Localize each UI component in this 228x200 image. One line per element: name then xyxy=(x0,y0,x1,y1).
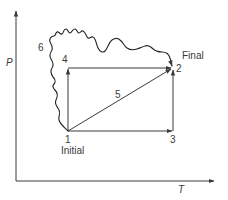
x-axis-label: T xyxy=(178,184,185,195)
path-5-label: 5 xyxy=(115,89,121,100)
path-6-label: 6 xyxy=(38,42,44,53)
path-5 xyxy=(68,69,171,131)
point-2-caption: Final xyxy=(182,50,204,61)
point-3-label: 3 xyxy=(170,134,176,145)
axes: P T xyxy=(6,11,214,195)
point-1-label: 1 xyxy=(65,134,71,145)
pt-diagram: P T 1 Initial 2 Final 3 4 5 6 xyxy=(0,0,228,200)
point-2-label: 2 xyxy=(176,63,182,74)
y-axis-label: P xyxy=(6,57,13,68)
point-1-caption: Initial xyxy=(61,145,84,156)
point-4-label: 4 xyxy=(62,54,68,65)
